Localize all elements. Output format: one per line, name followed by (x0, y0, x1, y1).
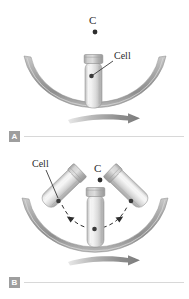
trajectory-arrowhead-right (116, 217, 124, 223)
cell-marker-right (129, 199, 134, 204)
panel-key-b-box: B (9, 277, 20, 288)
tube-center (86, 188, 105, 248)
panel-b: C Cell B (0, 145, 189, 299)
centrifuge-figure: C Cell A (0, 0, 189, 299)
panel-a: C Cell A (0, 0, 189, 150)
center-of-rotation-dot (93, 30, 98, 35)
rotation-arrow (68, 113, 140, 123)
label-center-of-rotation-b: C (94, 162, 101, 174)
label-cell-b: Cell (32, 158, 49, 169)
tube-center (84, 55, 103, 109)
cell-marker-left (56, 199, 61, 204)
label-center-of-rotation-a: C (89, 14, 96, 26)
label-cell-a: Cell (114, 50, 131, 61)
center-of-rotation-dot (98, 178, 103, 183)
panel-key-a-box: A (9, 131, 20, 142)
panel-key-b-rule (24, 282, 184, 283)
tube-right (103, 163, 151, 210)
rotation-arrow (68, 255, 140, 265)
panel-key-a-rule (24, 136, 184, 137)
trajectory-arrowhead-left (67, 217, 75, 223)
panel-key-b: B (9, 277, 184, 288)
cell-marker-center (92, 227, 97, 232)
panel-key-a: A (9, 131, 184, 142)
